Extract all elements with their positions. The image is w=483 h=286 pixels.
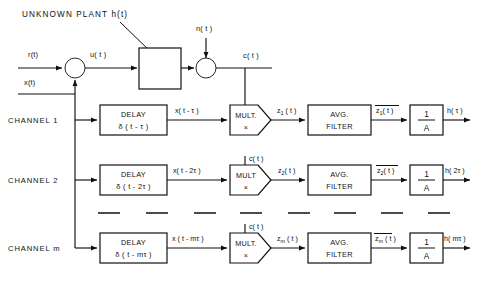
channel-m-delay-output-label: x ( t - mτ ) [172, 234, 204, 243]
channel-1-delay-output-label: x( t - τ ) [175, 106, 199, 115]
channel-m-output-label: h( mτ ) [444, 234, 466, 243]
channel-m-filter-line2: FILTER [326, 250, 353, 259]
unknown-plant-box [139, 48, 181, 89]
channel-m-gain-denominator: A [424, 251, 430, 261]
noise-input-label: n( t ) [196, 24, 212, 33]
channel-1-filter-line1: AVG. [330, 110, 348, 119]
channel-2-gain-denominator: A [424, 183, 430, 193]
channel-1-filter-output-label: z1( t ) [376, 106, 393, 116]
channel-1-output-label: h( τ ) [447, 106, 463, 115]
channel-m-gain-numerator: 1 [424, 237, 429, 247]
channel-1-gain-denominator: A [424, 123, 430, 133]
channel-2-delay-output-label: x( t - 2τ ) [173, 166, 201, 175]
channel-1-gain-numerator: 1 [424, 109, 429, 119]
channel-2-mult-input-label: c( t ) [249, 154, 263, 163]
channel-m-delay-expression: δ ( t - mτ ) [115, 250, 152, 259]
channel-m-filter-line1: AVG. [330, 238, 348, 247]
channel-2-mult-title: MULT [236, 171, 257, 180]
channel-m-multiply-icon: × [244, 251, 249, 260]
channel-m-mult-output-label: zm ( t ) [277, 234, 298, 244]
r-input-label: r(t) [28, 50, 38, 59]
channel-row-1: CHANNEL 1 DELAY δ ( t - τ ) x( t - τ ) M… [8, 105, 470, 135]
channel-1-label: CHANNEL 1 [8, 116, 58, 125]
channel-m-filter-output-label: zm ( t ) [375, 234, 396, 244]
channel-m-mult-input-label: c( t ) [249, 222, 263, 231]
channel-2-filter-line2: FILTER [326, 182, 353, 191]
block-diagram-figure: UNKNOWN PLANT h(t) r(t) x(t) u( t ) n( t… [0, 0, 483, 286]
channel-2-filter-output-label: z2( t ) [377, 166, 394, 176]
channel-m-delay-title: DELAY [121, 238, 146, 247]
channel-1-mult-output-label: z1 ( t ) [277, 106, 296, 116]
channel-2-mult-block [230, 165, 271, 195]
channel-2-filter-line1: AVG. [330, 170, 348, 179]
channel-1-filter-line2: FILTER [326, 122, 353, 131]
c-output-label: c( t ) [243, 51, 259, 60]
channel-1-mult-block [230, 105, 271, 135]
channel-2-gain-numerator: 1 [424, 169, 429, 179]
channel-1-multiply-icon: × [244, 123, 249, 132]
channel-2-label: CHANNEL 2 [8, 176, 58, 185]
channel-m-label: CHANNEL m [8, 244, 61, 253]
channel-m-mult-title: MULT. [235, 239, 257, 248]
channel-2-output-label: h( 2τ ) [445, 166, 465, 175]
channel-1-mult-title: MULT. [235, 111, 257, 120]
summing-junction-2 [196, 58, 216, 78]
plant-title-label: UNKNOWN PLANT h(t) [22, 10, 128, 19]
channel-1-delay-expression: δ ( t - τ ) [118, 122, 148, 131]
x-input-label: x(t) [24, 78, 35, 87]
channel-2-delay-expression: δ ( t - 2τ ) [116, 182, 150, 191]
channel-row-m: CHANNEL m DELAY δ ( t - mτ ) x ( t - mτ … [8, 222, 470, 263]
summing-junction-1 [65, 58, 85, 78]
channel-2-delay-title: DELAY [121, 170, 146, 179]
channel-2-mult-output-label: z2( t ) [278, 166, 295, 176]
channel-2-multiply-icon: × [244, 183, 249, 192]
channel-1-delay-title: DELAY [121, 110, 146, 119]
channel-row-2: CHANNEL 2 DELAY δ ( t - 2τ ) x( t - 2τ )… [8, 154, 470, 195]
u-signal-label: u( t ) [90, 50, 106, 59]
channel-m-mult-block [230, 233, 271, 263]
